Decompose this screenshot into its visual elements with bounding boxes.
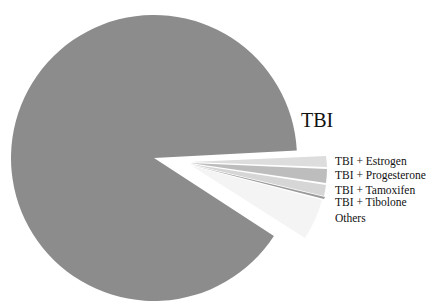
label-tbi-tamoxifen: TBI + Tamoxifen (335, 184, 415, 196)
pie-svg (0, 0, 429, 307)
label-tbi: TBI (301, 109, 333, 132)
label-tbi-progesterone: TBI + Progesterone (335, 169, 426, 181)
label-tbi-estrogen: TBI + Estrogen (335, 155, 407, 167)
label-tbi-tibolone: TBI + Tibolone (335, 196, 407, 208)
slice-tbi (11, 15, 297, 301)
label-others: Others (335, 212, 366, 224)
pie-chart: TBI TBI + Estrogen TBI + Progesterone TB… (0, 0, 429, 307)
